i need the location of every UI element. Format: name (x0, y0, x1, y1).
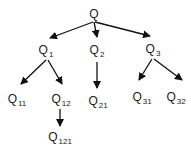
node-q3: Q3 (146, 43, 161, 58)
node-subscript: 31 (143, 97, 152, 106)
edge-arrow-q1-q12 (48, 60, 62, 84)
node-base: Q (166, 90, 175, 104)
node-q: Q (89, 8, 98, 20)
node-subscript: 2 (100, 50, 104, 59)
node-subscript: 12 (62, 99, 71, 108)
edge-arrow-q-q3 (95, 22, 150, 36)
node-subscript: 121 (58, 137, 71, 145)
node-q31: Q31 (132, 91, 151, 106)
node-q1: Q1 (39, 44, 54, 59)
node-base: Q (89, 7, 98, 21)
node-subscript: 1 (49, 50, 53, 59)
node-base: Q (48, 130, 57, 144)
node-base: Q (8, 92, 17, 106)
node-subscript: 32 (177, 97, 186, 106)
node-q2: Q2 (90, 44, 105, 59)
node-base: Q (132, 90, 141, 104)
node-base: Q (51, 92, 60, 106)
node-base: Q (146, 42, 155, 56)
edge-arrow-q3-q31 (139, 59, 152, 80)
edge-arrow-q3-q32 (154, 59, 182, 80)
edge-arrow-q-q1 (50, 22, 93, 38)
node-q32: Q32 (166, 91, 185, 106)
node-q12: Q12 (51, 93, 70, 108)
edge-arrow-q-q2 (94, 22, 97, 37)
node-base: Q (90, 43, 99, 57)
node-subscript: 21 (99, 101, 108, 110)
edge-arrow-q1-q11 (21, 60, 46, 84)
tree-edges (0, 0, 191, 144)
node-subscript: 11 (18, 99, 26, 108)
node-q21: Q21 (88, 95, 107, 110)
node-base: Q (88, 94, 97, 108)
node-subscript: 3 (156, 49, 160, 58)
node-q11: Q11 (8, 93, 27, 108)
node-base: Q (39, 43, 48, 57)
tree-diagram: Q Q1 Q2 Q3 Q11 Q12 Q21 Q31 Q32 Q121 (0, 0, 191, 144)
node-q121: Q121 (48, 131, 72, 145)
